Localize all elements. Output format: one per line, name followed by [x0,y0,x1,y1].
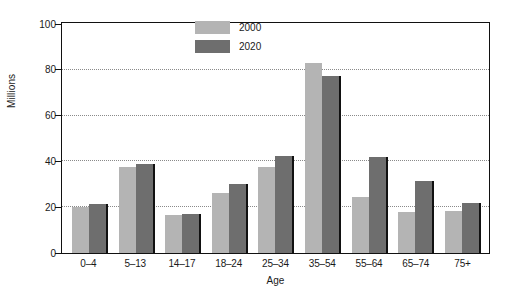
y-tick-mark [55,207,62,208]
y-tick-mark [55,161,62,162]
bar-group [119,164,153,253]
y-tick-label: 80 [22,64,56,75]
y-tick-label: 60 [22,110,56,121]
x-tick-label: 0–4 [71,258,105,269]
bar-2020-14–17 [182,214,199,253]
x-tick-label: 55–64 [352,258,386,269]
y-tick-label: 40 [22,155,56,166]
x-tick-label: 25–34 [258,258,292,269]
y-axis-tick-labels: 020406080100 [22,0,56,298]
bar-group [398,181,432,253]
bar-2000-25–34 [258,167,275,253]
x-axis-title: Age [61,275,490,286]
bar-2000-18–24 [212,193,229,253]
bar-2000-75+ [445,211,462,253]
bar-2000-14–17 [165,215,182,253]
bar-group [165,214,199,253]
y-tick-mark [55,253,62,254]
bar-2000-5–13 [119,167,136,253]
y-tick-label: 20 [22,201,56,212]
bar-2000-35–54 [305,63,322,253]
bar-group [212,184,246,253]
x-tick-label: 75+ [446,258,480,269]
bar-2020-18–24 [229,184,246,253]
bar-group [305,63,339,253]
legend-label: 2020 [239,41,261,52]
bar-2000-65–74 [398,212,415,253]
bar-2020-55–64 [369,157,386,253]
y-tick-mark [55,24,62,25]
bar-2020-0–4 [89,204,106,253]
legend-item-2020: 2020 [195,39,315,54]
bar-group [258,156,292,253]
x-tick-label: 65–74 [399,258,433,269]
legend-item-2000: 2000 [195,20,315,35]
y-tick-label: 100 [22,18,56,29]
bar-2000-55–64 [352,197,369,253]
legend-swatch-2000 [195,21,230,34]
bar-2020-75+ [462,203,479,253]
y-axis-title: Millions [6,74,17,108]
x-tick-label: 5–13 [118,258,152,269]
bar-2020-35–54 [322,76,339,253]
x-tick-label: 14–17 [165,258,199,269]
bar-2020-65–74 [415,181,432,253]
y-tick-mark [55,69,62,70]
bar-group [352,157,386,253]
bar-2020-5–13 [136,164,153,253]
bar-group [72,204,106,253]
y-tick-mark [55,115,62,116]
y-tick-label: 0 [22,247,56,258]
legend: 20002020 [195,20,315,58]
legend-swatch-2020 [195,40,230,53]
x-tick-label: 35–54 [305,258,339,269]
bar-2000-0–4 [72,207,89,253]
x-axis-tick-labels: 0–45–1314–1718–2425–3435–5455–6465–7475+ [61,258,490,269]
bar-chart: Millions 020406080100 20002020 0–45–1314… [0,0,507,298]
legend-label: 2000 [239,22,261,33]
bar-group [445,203,479,253]
bar-2020-25–34 [275,156,292,253]
x-tick-label: 18–24 [212,258,246,269]
